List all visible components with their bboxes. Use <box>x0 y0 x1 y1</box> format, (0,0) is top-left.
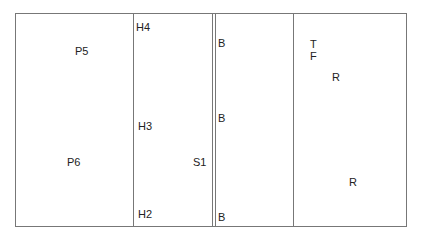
label-b-mid: B <box>218 112 225 124</box>
label-t: T <box>310 38 317 50</box>
label-b-top: B <box>218 37 225 49</box>
label-s1: S1 <box>193 156 206 168</box>
label-r-top: R <box>332 71 340 83</box>
label-f: F <box>310 50 317 62</box>
outer-frame <box>15 13 407 227</box>
double-divider-line-a <box>212 13 213 227</box>
label-r-bot: R <box>349 176 357 188</box>
label-b-bot: B <box>218 211 225 223</box>
label-h2: H2 <box>138 208 152 220</box>
double-divider-line-b <box>215 13 216 227</box>
label-h4: H4 <box>136 21 150 33</box>
label-p6: P6 <box>67 156 80 168</box>
divider-line-3 <box>293 13 294 227</box>
label-p5: P5 <box>75 45 88 57</box>
divider-line-1 <box>133 13 134 227</box>
label-h3: H3 <box>138 120 152 132</box>
